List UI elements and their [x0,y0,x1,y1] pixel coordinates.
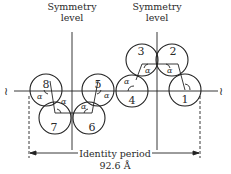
symmetry-label-left-line1: Symmetry [47,1,97,12]
alpha-label-6: α [81,102,87,111]
symmetry-label-left-line2: level [61,12,84,23]
angle-arc-7 [57,109,61,113]
circle-label-5: 5 [95,78,102,91]
helix-diagram: ≀ ≀ Symmetry level Symmetry level 1 2 3 [0,0,231,174]
circle-label-2: 2 [170,45,177,58]
alpha-label-4: α [124,77,130,86]
alpha-label-3: α [145,66,151,75]
symmetry-label-right-line2: level [146,12,169,23]
alpha-label-2: α [167,66,173,75]
identity-period-value: 92.6 Å [99,160,130,171]
break-mark-right: ≀ [219,85,223,98]
break-mark-left: ≀ [4,85,8,98]
circle-label-8: 8 [43,78,50,91]
circle-label-7: 7 [51,121,58,134]
arrowhead-left-icon [30,151,36,155]
identity-period-label: Identity period [79,148,151,159]
alpha-label-5: α [104,91,110,100]
circle-label-4: 4 [129,94,136,107]
link-right [136,64,185,90]
alpha-label-8: α [37,92,43,101]
symmetry-label-right-line1: Symmetry [132,1,182,12]
angle-arc-4 [128,86,134,91]
circle-label-6: 6 [89,121,96,134]
alpha-label-7: α [61,97,67,106]
link-left [50,81,98,113]
arrowhead-right-icon [193,151,199,155]
angle-arc-1 [185,84,190,90]
circle-label-1: 1 [182,93,189,106]
circle-label-3: 3 [138,45,145,58]
